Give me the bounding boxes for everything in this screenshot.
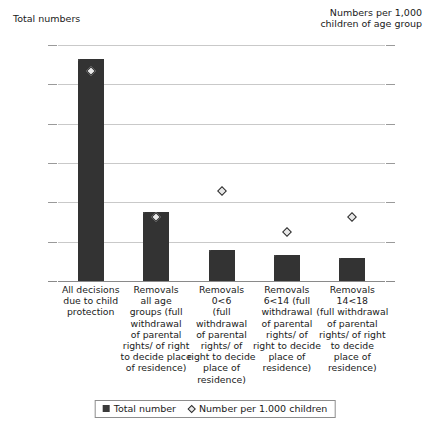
data-point-marker <box>217 186 227 196</box>
x-axis-category-label: Removals all age groups (full withdrawal… <box>119 284 193 374</box>
bar <box>209 250 235 281</box>
data-point-marker <box>347 212 357 222</box>
tick-mark-right <box>386 45 395 46</box>
gridline <box>58 45 385 46</box>
chart-container: Total numbers Numbers per 1,000 children… <box>0 0 430 430</box>
x-axis-baseline <box>58 281 385 282</box>
gridline <box>58 242 385 243</box>
gridline <box>58 202 385 203</box>
plot-area: 005,0000.510,000115,0001.520,000225,0002… <box>58 45 385 281</box>
tick-mark-left <box>48 242 57 243</box>
tick-mark-left <box>48 281 57 282</box>
x-axis-category-label: Removals 0<6 (full withdrawal of parenta… <box>187 284 257 385</box>
tick-mark-left <box>48 45 57 46</box>
tick-mark-right <box>386 281 395 282</box>
data-point-marker <box>282 227 292 237</box>
tick-mark-right <box>386 84 395 85</box>
legend-bar-swatch-icon <box>103 405 110 412</box>
left-axis-caption: Total numbers <box>13 13 80 24</box>
bar <box>274 255 300 281</box>
x-axis-category-label: All decisions due to child protection <box>54 284 128 318</box>
tick-mark-left <box>48 124 57 125</box>
gridline <box>58 124 385 125</box>
gridline <box>58 163 385 164</box>
x-axis-category-labels: All decisions due to child protectionRem… <box>58 284 385 392</box>
tick-mark-left <box>48 163 57 164</box>
right-axis-caption: Numbers per 1,000 children of age group <box>320 7 422 29</box>
tick-mark-left <box>48 202 57 203</box>
gridline <box>58 84 385 85</box>
x-axis-category-label: Removals 14<18 (full withdrawal of paren… <box>315 284 389 374</box>
x-axis-category-label: Removals 6<14 (full withdrawal of parent… <box>252 284 322 374</box>
tick-mark-right <box>386 242 395 243</box>
tick-mark-left <box>48 84 57 85</box>
legend-label-number-per-1000: Number per 1.000 children <box>199 403 327 414</box>
chart-legend: Total number Number per 1.000 children <box>95 400 336 418</box>
tick-mark-right <box>386 163 395 164</box>
legend-item-total-number: Total number <box>103 403 176 414</box>
legend-diamond-swatch-icon <box>188 404 196 412</box>
legend-label-total-number: Total number <box>114 403 176 414</box>
bar <box>78 59 104 281</box>
bar <box>339 258 365 281</box>
bar <box>143 212 169 281</box>
tick-mark-right <box>386 202 395 203</box>
legend-item-number-per-1000: Number per 1.000 children <box>189 403 327 414</box>
tick-mark-right <box>386 124 395 125</box>
